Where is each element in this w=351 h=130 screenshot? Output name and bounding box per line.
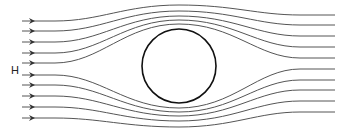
flow-diagram: H bbox=[0, 0, 351, 130]
label-h: H bbox=[11, 64, 19, 76]
arrowheads bbox=[29, 18, 35, 121]
streamline bbox=[22, 5, 335, 21]
streamline bbox=[22, 69, 335, 108]
cylinder-obstacle bbox=[142, 29, 216, 103]
streamline bbox=[22, 112, 335, 127]
streamlines bbox=[22, 5, 335, 127]
streamline bbox=[22, 11, 335, 31]
